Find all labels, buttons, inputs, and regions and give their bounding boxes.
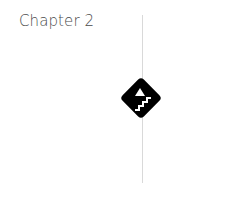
chapter-emblem (117, 74, 165, 122)
stairs-diamond-icon (117, 74, 165, 122)
chapter-title: Chapter 2 (19, 12, 94, 30)
